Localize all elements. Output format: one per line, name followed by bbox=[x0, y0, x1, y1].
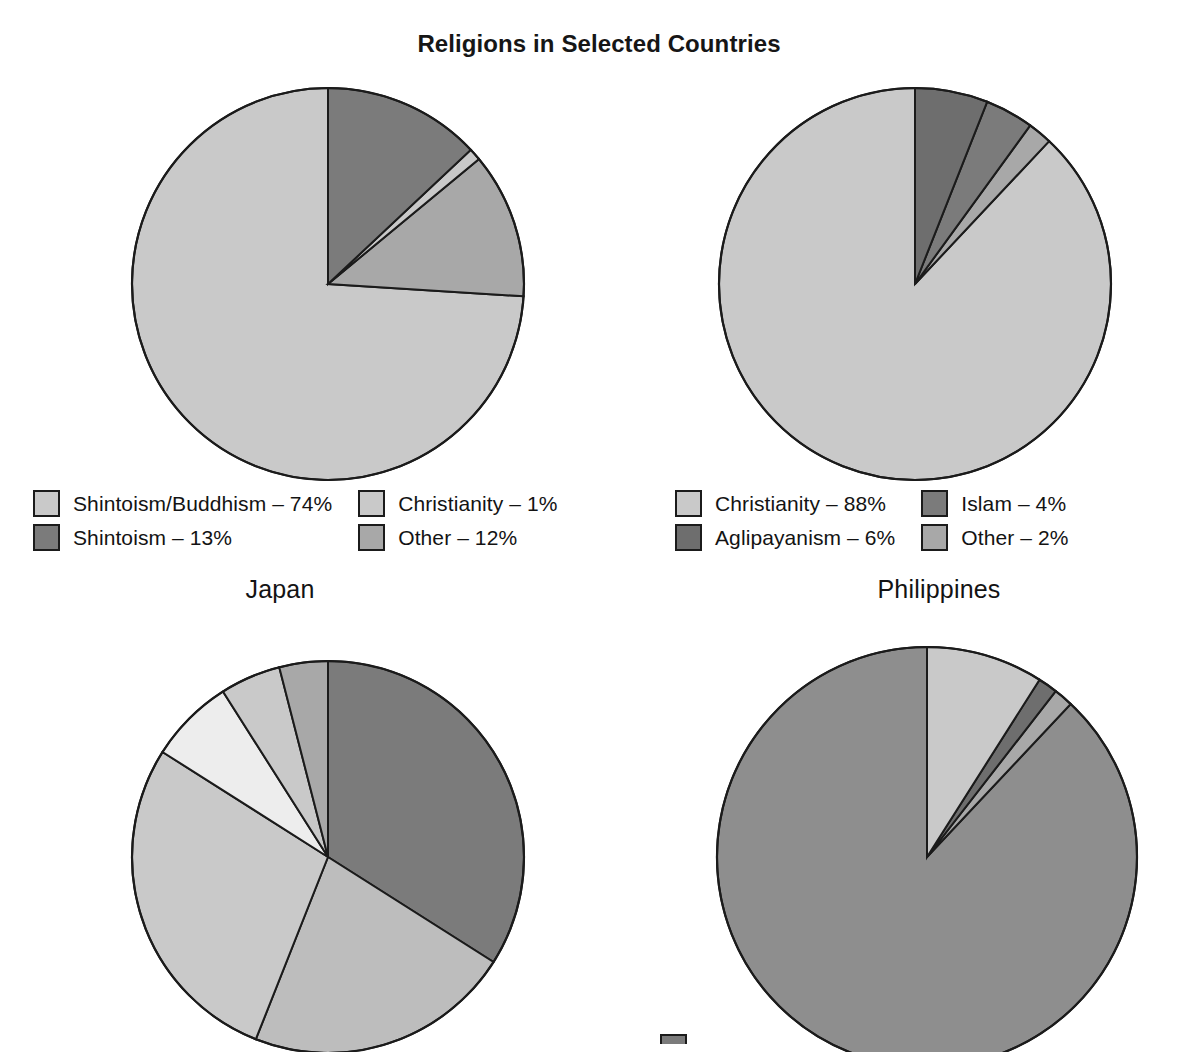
legend-label: Shintoism – 13% bbox=[73, 526, 232, 550]
pie-chart-third bbox=[131, 652, 471, 1052]
country-label-japan: Japan bbox=[0, 575, 560, 604]
legend-item[interactable]: Islam – 4% bbox=[921, 490, 1068, 517]
legend-japan: Shintoism/Buddhism – 74% Christianity – … bbox=[33, 490, 557, 551]
legend-swatch-cropped bbox=[660, 1034, 687, 1044]
legend-item[interactable]: Other – 2% bbox=[921, 524, 1068, 551]
page-title: Religions in Selected Countries bbox=[0, 30, 1198, 58]
pie-slices-japan bbox=[132, 88, 524, 480]
legend-label: Christianity – 1% bbox=[398, 492, 557, 516]
panel-third-chart bbox=[0, 630, 599, 1040]
pie-slices-philippines bbox=[719, 88, 1111, 480]
legend-item[interactable]: Christianity – 88% bbox=[675, 490, 895, 517]
legend-item[interactable]: Aglipayanism – 6% bbox=[675, 524, 895, 551]
pie-slices-third bbox=[132, 661, 524, 1052]
pie-svg-philippines bbox=[718, 86, 1058, 482]
legend-label: Christianity – 88% bbox=[715, 492, 886, 516]
legend-label: Other – 2% bbox=[961, 526, 1068, 550]
legend-swatch bbox=[921, 524, 948, 551]
legend-label: Islam – 4% bbox=[961, 492, 1066, 516]
legend-swatch bbox=[358, 490, 385, 517]
legend-swatch bbox=[33, 524, 60, 551]
panel-fourth-chart bbox=[599, 630, 1198, 1040]
legend-label: Aglipayanism – 6% bbox=[715, 526, 895, 550]
panel-japan: Shintoism/Buddhism – 74% Christianity – … bbox=[0, 70, 599, 620]
pie-svg-third bbox=[131, 652, 471, 1052]
pie-chart-fourth bbox=[715, 652, 1075, 1052]
legend-item[interactable]: Other – 12% bbox=[358, 524, 557, 551]
pie-svg-japan bbox=[131, 86, 471, 482]
legend-label: Other – 12% bbox=[398, 526, 517, 550]
pie-chart-philippines bbox=[718, 86, 1058, 482]
legend-swatch bbox=[921, 490, 948, 517]
pie-slices-fourth bbox=[717, 647, 1137, 1052]
legend-item[interactable]: Shintoism – 13% bbox=[33, 524, 332, 551]
country-label-philippines: Philippines bbox=[659, 575, 1198, 604]
pie-svg-fourth bbox=[715, 652, 1075, 1052]
legend-item[interactable]: Shintoism/Buddhism – 74% bbox=[33, 490, 332, 517]
legend-swatch bbox=[33, 490, 60, 517]
legend-swatch bbox=[675, 524, 702, 551]
legend-swatch bbox=[358, 524, 385, 551]
pie-chart-japan bbox=[131, 86, 471, 482]
panel-philippines: Christianity – 88% Islam – 4% Aglipayani… bbox=[599, 70, 1198, 620]
legend-label: Shintoism/Buddhism – 74% bbox=[73, 492, 332, 516]
legend-item[interactable]: Christianity – 1% bbox=[358, 490, 557, 517]
legend-philippines: Christianity – 88% Islam – 4% Aglipayani… bbox=[675, 490, 1069, 551]
legend-swatch bbox=[675, 490, 702, 517]
